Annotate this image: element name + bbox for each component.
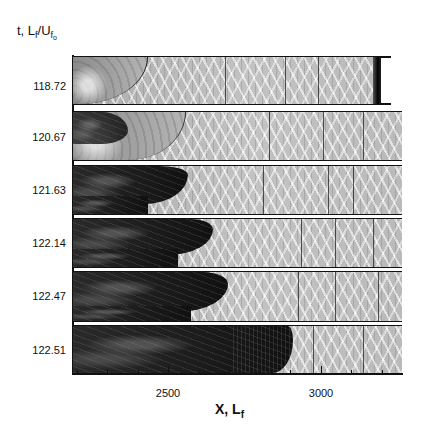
shock-line	[363, 326, 364, 373]
x-tick-label: 3000	[309, 387, 333, 399]
shock-line	[298, 272, 299, 321]
y-axis-title: t, Lf/Ufo	[17, 24, 57, 45]
shock-line	[323, 112, 324, 160]
x-minor-tick	[260, 370, 261, 374]
burned-region	[73, 112, 128, 144]
x-minor-tick	[107, 370, 108, 374]
snapshot-panel-4	[73, 218, 402, 268]
shock-line	[285, 57, 286, 104]
x-major-tick	[321, 366, 322, 374]
shock-line	[328, 166, 329, 214]
snapshot-panel-2	[73, 111, 402, 161]
shock-line	[225, 57, 226, 104]
x-minor-tick	[138, 370, 139, 374]
burned-region	[73, 249, 178, 267]
shock-line	[335, 219, 336, 267]
leading-shock-band	[373, 57, 381, 104]
shock-line	[378, 272, 379, 321]
striated-wave-region	[233, 326, 293, 373]
burned-region	[73, 196, 148, 214]
shock-line	[301, 219, 302, 267]
snapshot-panel-6	[73, 325, 402, 374]
shock-line	[363, 112, 364, 160]
x-axis-line	[72, 373, 403, 375]
shock-line	[263, 166, 264, 214]
panel-border	[380, 56, 391, 58]
time-label: 122.14	[22, 237, 66, 249]
x-minor-tick	[382, 370, 383, 374]
x-major-tick	[168, 366, 169, 374]
x-tick-label: 2500	[156, 387, 180, 399]
x-minor-tick	[199, 370, 200, 374]
burned-region	[73, 306, 191, 321]
time-label: 122.51	[22, 344, 66, 356]
blank-region	[381, 57, 391, 104]
time-label: 120.67	[22, 131, 66, 143]
x-minor-tick	[229, 370, 230, 374]
x-minor-tick	[290, 370, 291, 374]
time-label: 122.47	[22, 290, 66, 302]
shock-line	[353, 166, 354, 214]
shock-line	[335, 272, 336, 321]
x-axis-title: X, Lf	[215, 401, 244, 420]
snapshot-panel-3	[73, 165, 402, 215]
snapshot-panel-5	[73, 271, 402, 322]
time-label: 118.72	[22, 80, 66, 92]
x-minor-tick	[77, 370, 78, 374]
panel-border	[380, 103, 391, 105]
shock-line	[269, 112, 270, 160]
time-label: 121.63	[22, 184, 66, 196]
shock-line	[373, 219, 374, 267]
shock-line	[313, 326, 314, 373]
snapshot-panel-1	[73, 56, 391, 105]
x-minor-tick	[351, 370, 352, 374]
shock-line	[318, 57, 319, 104]
